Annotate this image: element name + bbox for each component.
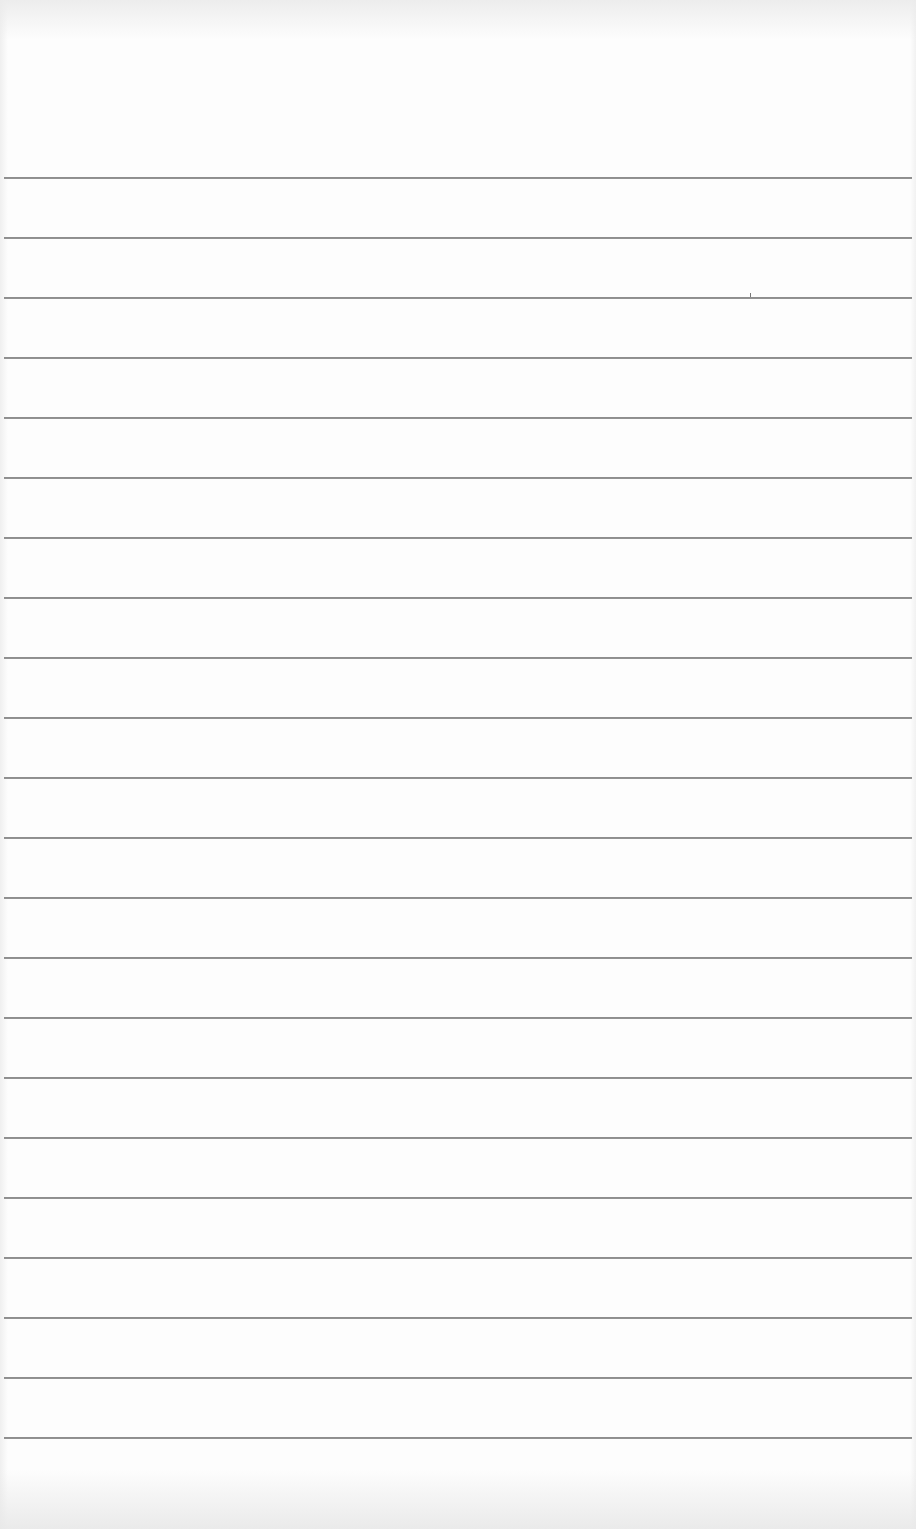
lined-paper-sheet — [0, 0, 916, 1529]
writing-area — [0, 0, 916, 1529]
